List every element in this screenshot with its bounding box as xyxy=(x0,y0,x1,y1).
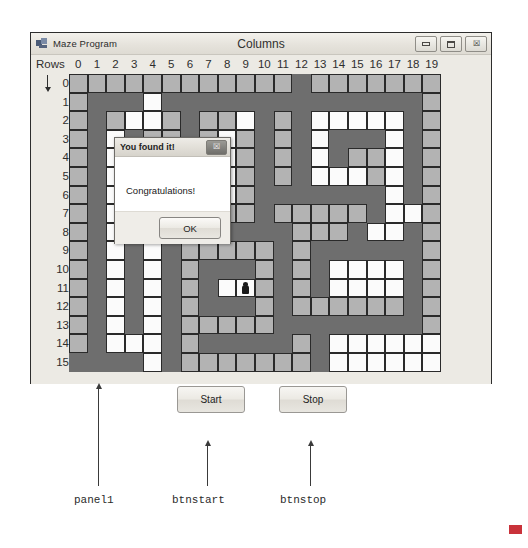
maze-cell-wall xyxy=(367,93,386,112)
maze-cell-wall xyxy=(125,260,144,279)
maze-cell-wall xyxy=(404,167,423,186)
maze-cell-wall xyxy=(367,316,386,335)
maze-cell-wall xyxy=(88,334,107,353)
maze-cell-wall xyxy=(292,111,311,130)
dialog-title-bar[interactable]: You found it! ☒ xyxy=(115,138,230,157)
maze-cell-open xyxy=(143,279,162,298)
maze-cell-wall xyxy=(311,279,330,298)
dialog-close-button[interactable]: ☒ xyxy=(206,140,227,155)
maze-cell-path xyxy=(106,111,125,130)
maze-cell-open xyxy=(367,111,386,130)
maze-cell-open xyxy=(143,111,162,130)
maze-cell-path xyxy=(199,111,218,130)
maze-cell-wall xyxy=(292,130,311,149)
maze-cell-open xyxy=(143,260,162,279)
maze-cell-open xyxy=(348,260,367,279)
row-label-14: 14 xyxy=(43,334,69,353)
maze-cell-path xyxy=(404,74,423,93)
maze-cell-path xyxy=(255,260,274,279)
maze-cell-open xyxy=(367,260,386,279)
column-label-5: 5 xyxy=(162,58,181,70)
row-label-2: 2 xyxy=(43,111,69,130)
maze-cell-path xyxy=(422,130,441,149)
maze-cell-path xyxy=(422,223,441,242)
stop-button[interactable]: Stop xyxy=(279,386,347,413)
start-button[interactable]: Start xyxy=(177,386,245,413)
maze-cell-open xyxy=(385,260,404,279)
maze-cell-open xyxy=(106,260,125,279)
maze-cell-wall xyxy=(311,334,330,353)
maze-cell-path xyxy=(181,279,200,298)
close-button[interactable]: ☒ xyxy=(465,36,487,52)
maze-cell-wall xyxy=(367,204,386,223)
maze-cell-path xyxy=(292,334,311,353)
maze-cell-open xyxy=(385,130,404,149)
maze-cell-path xyxy=(422,148,441,167)
column-label-2: 2 xyxy=(106,58,125,70)
column-label-18: 18 xyxy=(404,58,423,70)
maze-cell-wall xyxy=(255,111,274,130)
maze-cell-path xyxy=(367,167,386,186)
row-label-4: 4 xyxy=(43,148,69,167)
maze-cell-open xyxy=(329,260,348,279)
maze-cell-path xyxy=(69,74,88,93)
maze-cell-wall xyxy=(255,334,274,353)
maze-cell-path xyxy=(236,316,255,335)
maze-cell-path xyxy=(69,167,88,186)
maze-cell-wall xyxy=(106,353,125,372)
maze-cell-open xyxy=(404,353,423,372)
maze-cell-open xyxy=(367,334,386,353)
maze-cell-path xyxy=(162,74,181,93)
maze-cell-wall xyxy=(292,148,311,167)
maze-cell-wall xyxy=(404,279,423,298)
annotation-panel1: panel1 xyxy=(74,494,114,506)
window-controls: ☒ xyxy=(415,36,487,52)
maze-cell-wall xyxy=(88,279,107,298)
maze-cell-wall xyxy=(385,241,404,260)
minimize-button[interactable] xyxy=(415,36,437,52)
maze-cell-path xyxy=(292,353,311,372)
row-label-9: 9 xyxy=(43,241,69,260)
annotation-leader-panel1 xyxy=(98,388,99,486)
maze-cell-wall xyxy=(329,241,348,260)
maze-cell-path xyxy=(143,74,162,93)
maze-cell-open xyxy=(329,353,348,372)
maximize-button[interactable] xyxy=(440,36,462,52)
maze-cell-wall xyxy=(218,297,237,316)
maze-cell-path xyxy=(69,279,88,298)
maze-cell-wall xyxy=(404,148,423,167)
maze-cell-wall xyxy=(404,111,423,130)
maze-cell-open xyxy=(143,241,162,260)
maze-cell-path xyxy=(181,334,200,353)
column-label-19: 19 xyxy=(422,58,441,70)
maze-cell-open xyxy=(404,334,423,353)
maze-cell-path xyxy=(422,241,441,260)
maze-cell-wall xyxy=(255,204,274,223)
maze-cell-wall xyxy=(236,93,255,112)
column-label-8: 8 xyxy=(218,58,237,70)
column-label-6: 6 xyxy=(181,58,200,70)
maze-cell-wall xyxy=(367,241,386,260)
dialog-ok-button[interactable]: OK xyxy=(159,217,221,239)
maze-cell-wall xyxy=(88,241,107,260)
maze-cell-wall xyxy=(329,186,348,205)
maze-cell-wall xyxy=(218,334,237,353)
maze-cell-wall xyxy=(162,241,181,260)
maze-cell-wall xyxy=(255,223,274,242)
maze-cell-open xyxy=(143,353,162,372)
maze-cell-open xyxy=(348,334,367,353)
maze-cell-wall xyxy=(88,353,107,372)
maze-cell-path xyxy=(218,241,237,260)
maze-cell-wall xyxy=(311,316,330,335)
maze-cell-open xyxy=(367,279,386,298)
maze-cell-open xyxy=(348,111,367,130)
window-title-bar[interactable]: Maze Program Columns ☒ xyxy=(31,33,491,55)
maze-cell-wall xyxy=(404,241,423,260)
maze-cell-path xyxy=(218,353,237,372)
maze-cell-path xyxy=(236,241,255,260)
maze-cell-path xyxy=(348,204,367,223)
maze-cell-open xyxy=(329,167,348,186)
maze-cell-wall xyxy=(274,279,293,298)
maze-cell-wall xyxy=(199,93,218,112)
maze-cell-path xyxy=(199,241,218,260)
